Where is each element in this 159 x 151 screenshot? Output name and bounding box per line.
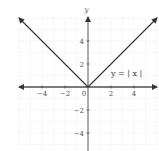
function-label: y = | x | (110, 69, 142, 78)
y-axis-label: y (84, 6, 90, 14)
y-tick-label: −2 (74, 107, 84, 115)
y-tick-label: 2 (80, 61, 84, 69)
x-tick-label: 4 (132, 90, 137, 98)
x-tick-label: −2 (60, 90, 70, 98)
plot-svg: −4−202442−2−4 y y = | x | (0, 0, 159, 151)
axes (19, 17, 157, 151)
absolute-value-graph: −4−202442−2−4 y y = | x | (0, 0, 159, 151)
y-tick-label: −4 (74, 130, 85, 138)
x-tick-label: 2 (109, 90, 113, 98)
x-tick-label: 0 (82, 90, 86, 98)
x-tick-label: −4 (37, 90, 48, 98)
y-tick-label: 4 (80, 38, 85, 46)
